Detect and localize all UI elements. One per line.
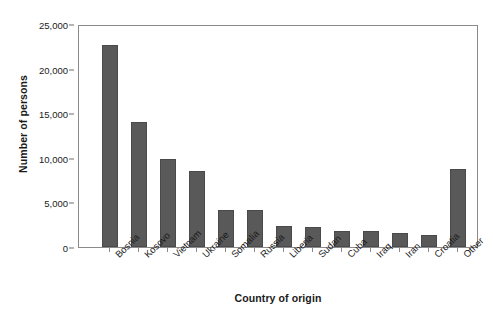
- x-axis-category-label: Sudan: [316, 252, 324, 260]
- y-axis-tick-label: 20,000: [39, 64, 68, 75]
- y-axis-tick-mark: [69, 203, 74, 204]
- y-axis-tick-mark: [69, 69, 74, 70]
- x-axis-category-label: Vietnam: [171, 252, 179, 260]
- y-axis-tick-mark: [69, 248, 74, 249]
- bar: [392, 233, 408, 247]
- y-axis-tick-label: 15,000: [39, 109, 68, 120]
- x-axis-category-label: Somalia: [229, 252, 237, 260]
- y-axis-tick-label: 10,000: [39, 153, 68, 164]
- bar: [102, 45, 118, 247]
- x-axis-category-labels: BosniaKosovoVietnamUkraineSomaliaRussiaL…: [78, 252, 478, 296]
- x-axis-category-label: Bosnia: [113, 252, 121, 260]
- bar: [421, 235, 437, 247]
- bar: [131, 122, 147, 247]
- y-axis-tick-mark: [69, 158, 74, 159]
- x-axis-category-label: Kosovo: [142, 252, 150, 260]
- x-axis-category-label: Iran: [403, 252, 411, 260]
- x-axis-category-label: Other: [461, 252, 469, 260]
- plot-area: [78, 25, 478, 248]
- x-axis-title: Country of origin: [78, 292, 478, 304]
- x-axis-category-label: Cuba: [345, 252, 353, 260]
- x-axis-category-label: Iraq: [374, 252, 382, 260]
- y-axis-tick-mark: [69, 114, 74, 115]
- y-axis-tick-labels: 05,00010,00015,00020,00025,000: [30, 25, 74, 248]
- x-axis-category-label: Liberia: [287, 252, 295, 260]
- y-axis-tick-label: 25,000: [39, 20, 68, 31]
- y-axis-tick-mark: [69, 25, 74, 26]
- bar-chart-figure: Number of persons 05,00010,00015,00020,0…: [0, 0, 493, 316]
- y-axis-title-text: Number of persons: [17, 75, 29, 173]
- x-axis-category-label: Croatia: [432, 252, 440, 260]
- y-axis-tick-label: 5,000: [44, 198, 68, 209]
- bar-series: [79, 26, 477, 247]
- y-axis-tick-label: 0: [63, 243, 68, 254]
- x-axis-category-label: Russia: [258, 252, 266, 260]
- x-axis-category-label: Ukraine: [200, 252, 208, 260]
